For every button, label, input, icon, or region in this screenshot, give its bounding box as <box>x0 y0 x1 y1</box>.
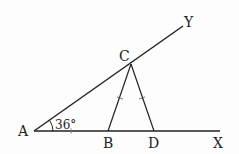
point-label-d: D <box>148 135 159 151</box>
point-label-a: A <box>17 123 29 139</box>
point-label-x: X <box>213 135 223 151</box>
diagram-svg: 36° A B C D X Y <box>0 0 239 154</box>
geometry-diagram: 36° A B C D X Y <box>0 0 239 154</box>
point-label-b: B <box>103 135 113 151</box>
ray-ay <box>34 26 183 131</box>
point-label-y: Y <box>183 14 194 30</box>
angle-arc-a <box>50 120 53 131</box>
angle-label: 36° <box>55 118 76 132</box>
point-label-c: C <box>119 48 130 64</box>
